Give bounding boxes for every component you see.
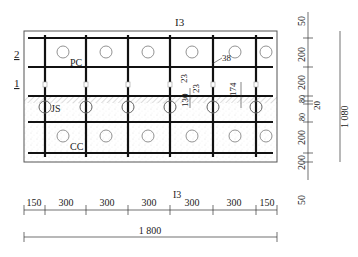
layer-mark-2: 2 [14, 48, 20, 60]
pc-circles [57, 46, 272, 58]
layer-mark-1: 1 [14, 77, 20, 89]
rdim-50-top: 50 [296, 16, 307, 26]
dim-23b: 23 [191, 84, 201, 94]
rdim-50-bottom: 50 [296, 195, 307, 205]
bdim-150-right: 150 [260, 197, 275, 208]
js-label: JS [51, 103, 60, 114]
bdim-total: 1 800 [139, 225, 162, 236]
pc-label: PC [70, 57, 83, 68]
bdim-300-2: 300 [100, 197, 115, 208]
rdim-200-c: 200 [296, 130, 307, 145]
section-mark-top: I3 [175, 16, 185, 28]
bdim-300-1: 300 [59, 197, 74, 208]
bdim-300-4: 300 [185, 197, 200, 208]
bdim-150-left: 150 [27, 197, 42, 208]
right-dim-chain [303, 12, 340, 180]
rdim-total: 1 080 [339, 106, 350, 129]
rdim-200-b: 200 [296, 75, 307, 90]
bottom-dim-chain [24, 205, 277, 242]
rdim-20: 20 [312, 101, 322, 111]
rdim-80-a: 80 [298, 95, 307, 103]
dim-130: 130 [180, 93, 190, 107]
bdim-300-5: 300 [227, 197, 242, 208]
section-mark-bottom: I3 [173, 189, 181, 200]
dim-23a: 23 [179, 74, 189, 84]
cc-label: CC [70, 141, 84, 152]
rdim-200-d: 200 [296, 155, 307, 170]
dim-38: 38 [222, 53, 232, 63]
js-hatch-band [24, 97, 277, 103]
rdim-80-b: 80 [298, 113, 307, 121]
dim-174: 174 [228, 82, 238, 96]
rdim-200-a: 200 [296, 47, 307, 62]
bdim-300-3: 300 [142, 197, 157, 208]
diagram-canvas: I3 I3 2 1 PC JS CC 38 130 23 23 174 50 2… [0, 0, 358, 257]
